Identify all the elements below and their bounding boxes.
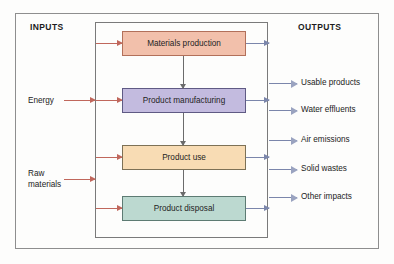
output-arrow-air-emissions (269, 140, 297, 141)
stage-box-product-manufacturing[interactable]: Product manufacturing (122, 88, 246, 113)
output-label-solid-wastes: Solid wastes (301, 164, 347, 173)
arrowhead-icon (180, 192, 186, 197)
stage-box-product-disposal[interactable]: Product disposal (122, 196, 246, 221)
output-stub-from-materials-production (246, 43, 269, 44)
inputs-column-heading: INPUTS (30, 22, 64, 32)
input-arrow-energy (64, 100, 95, 101)
stage-box-product-use[interactable]: Product use (122, 145, 246, 170)
arrowhead-icon (264, 154, 270, 160)
arrowhead-icon (291, 137, 298, 145)
input-arrow-raw-materials (64, 179, 95, 180)
input-arrow-to-product-manufacturing (96, 100, 122, 101)
output-label-usable-products: Usable products (301, 78, 360, 87)
arrowhead-icon (180, 84, 186, 89)
arrowhead-icon (180, 141, 186, 146)
arrowhead-icon (291, 107, 298, 115)
arrowhead-icon (291, 166, 298, 174)
outputs-column-heading: OUTPUTS (298, 22, 341, 32)
input-label-raw-materials: Raw materials (28, 168, 61, 190)
input-label-energy: Energy (28, 95, 54, 106)
input-arrow-to-product-disposal (96, 208, 122, 209)
output-arrow-solid-wastes (269, 169, 297, 170)
input-arrow-to-materials-production (96, 43, 122, 44)
arrowhead-icon (291, 80, 298, 88)
output-stub-from-product-disposal (246, 208, 269, 209)
output-arrow-usable-products (269, 83, 297, 84)
arrowhead-icon (264, 97, 270, 103)
output-stub-from-product-use (246, 157, 269, 158)
output-label-other-impacts: Other impacts (301, 192, 352, 201)
input-arrow-to-product-use (96, 157, 122, 158)
output-stub-from-product-manufacturing (246, 100, 269, 101)
output-arrow-water-effluents (269, 110, 297, 111)
flow-arrow-manufacturing-to-use (183, 113, 184, 145)
flow-arrow-materials-to-manufacturing (183, 56, 184, 88)
arrowhead-icon (90, 176, 96, 182)
diagram-canvas: INPUTS OUTPUTS Energy Raw materials Mate… (0, 0, 394, 264)
arrowhead-icon (291, 194, 298, 202)
stage-box-materials-production[interactable]: Materials production (122, 31, 246, 56)
flow-arrow-use-to-disposal (183, 170, 184, 196)
output-arrow-other-impacts (269, 197, 297, 198)
arrowhead-icon (264, 40, 270, 46)
output-label-air-emissions: Air emissions (301, 135, 350, 144)
output-label-water-effluents: Water effluents (301, 105, 356, 114)
arrowhead-icon (264, 205, 270, 211)
